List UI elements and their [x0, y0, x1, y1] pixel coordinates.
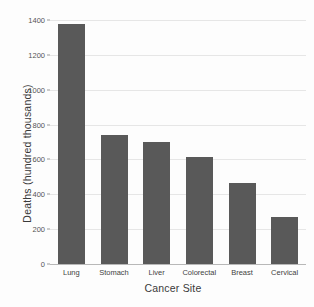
bars-layer: LungStomachLiverColorectalBreastCervical — [50, 20, 306, 264]
bar — [143, 142, 170, 264]
x-tick-label: Liver — [149, 268, 165, 277]
x-axis-title: Cancer Site — [40, 282, 306, 294]
x-tick-label: Stomach — [99, 268, 129, 277]
x-tick-label: Colorectal — [182, 268, 216, 277]
y-tick-label: 1200 — [28, 50, 45, 59]
x-tick-label: Lung — [63, 268, 80, 277]
plot-area: 0200400600800100012001400 LungStomachLiv… — [50, 20, 306, 264]
bar-group: Cervical — [271, 217, 298, 264]
bar-group: Lung — [58, 24, 85, 264]
y-tick-label: 200 — [32, 225, 45, 234]
y-tick-label: 600 — [32, 155, 45, 164]
bar-group: Stomach — [101, 135, 128, 264]
x-tick-label: Breast — [231, 268, 253, 277]
bar-group: Liver — [143, 142, 170, 264]
bar — [58, 24, 85, 264]
y-tick-label: 0 — [41, 260, 45, 269]
y-tick-label: 800 — [32, 120, 45, 129]
y-tick-label: 1000 — [28, 85, 45, 94]
bar — [101, 135, 128, 264]
bar-group: Colorectal — [186, 157, 213, 264]
y-axis-title: Deaths (hundred thousands) — [18, 0, 36, 307]
bar — [271, 217, 298, 264]
bar — [229, 183, 256, 264]
y-tick-label: 400 — [32, 190, 45, 199]
bar-group: Breast — [229, 183, 256, 264]
x-tick-label: Cervical — [271, 268, 298, 277]
bar-chart: Deaths (hundred thousands) 0200400600800… — [0, 0, 314, 307]
gridline — [50, 264, 306, 265]
bar — [186, 157, 213, 264]
y-tick-label: 1400 — [28, 16, 45, 25]
